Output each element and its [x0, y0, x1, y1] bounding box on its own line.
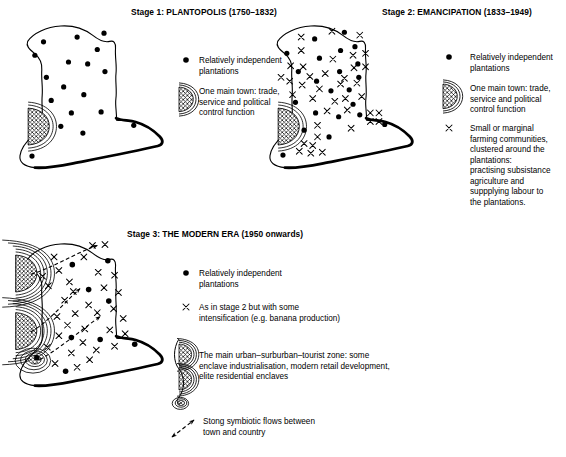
- plantation-dot-symbol: [183, 57, 189, 63]
- legend-line: plantations: [470, 64, 510, 73]
- legend-line: As in stage 2 but with some: [199, 303, 300, 312]
- legend-line: plantations:: [470, 156, 512, 165]
- legend-line: farming communities,: [470, 135, 548, 144]
- legend-line: plantations: [199, 280, 239, 289]
- legend-line: Stong symbiotic flows between: [203, 417, 315, 426]
- legend-line: the plantations.: [470, 198, 526, 207]
- legend-line: control function: [199, 108, 255, 117]
- legend-line: Relatively independent: [199, 269, 283, 278]
- legend-line: The main urban–surburban–tourist zone: s…: [199, 351, 370, 360]
- legend-line: service and political: [199, 98, 271, 107]
- legend-line: town and country: [203, 428, 266, 437]
- plantation-dot-symbol: [446, 54, 452, 60]
- stage-2-title: Stage 2: EMANCIPATION (1833–1949): [382, 7, 532, 17]
- legend-line: agriculture and: [470, 177, 525, 186]
- legend-line: One main town: trade,: [199, 87, 280, 96]
- legend-line: practising subsistance: [470, 166, 551, 175]
- legend-line: Relatively independent: [199, 56, 283, 65]
- legend-line: control function: [470, 105, 526, 114]
- legend-line: Small or marginal: [470, 124, 534, 133]
- legend-line: Relatively independent: [470, 53, 554, 62]
- legend-line: plantations: [199, 67, 239, 76]
- legend-line: enclave industrialisation, modern retail…: [199, 362, 390, 371]
- legend-line: elite residential enclaves: [199, 372, 288, 381]
- plantation-dot-symbol: [183, 270, 189, 276]
- stage-1-title: Stage 1: PLANTOPOLIS (1750–1832): [131, 7, 277, 17]
- legend-line: One main town: trade,: [470, 84, 551, 93]
- legend-line: service and political: [470, 95, 542, 104]
- legend-line: intensification (e.g. banana production): [199, 314, 340, 323]
- legend-line: clustered around the: [470, 145, 545, 154]
- legend-line: suppplying labour to: [470, 187, 544, 196]
- three-stages-caribbean-development-diagram: Stage 1: PLANTOPOLIS (1750–1832): [0, 0, 566, 457]
- stage-3-title: Stage 3: THE MODERN ERA (1950 onwards): [127, 229, 303, 239]
